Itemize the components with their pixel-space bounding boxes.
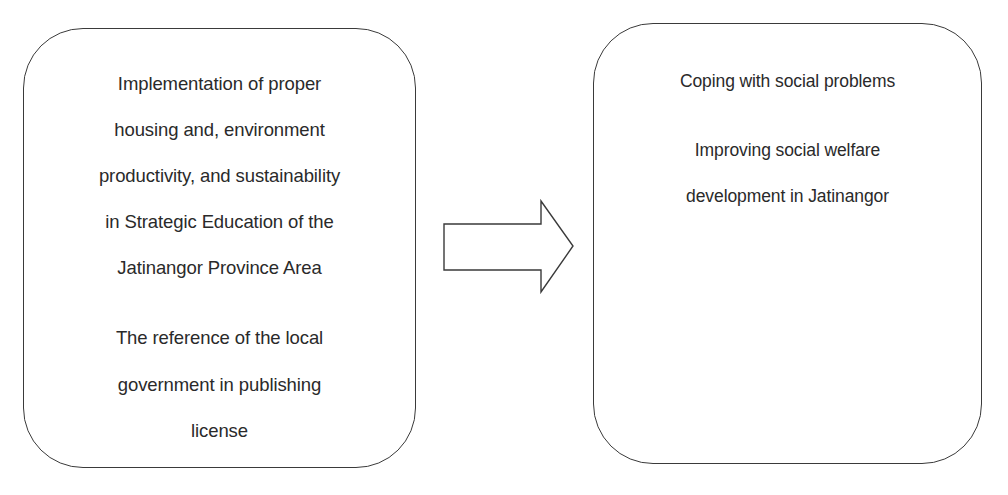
target-box: Coping with social problems Improving so… — [593, 23, 982, 464]
target-text-line: Coping with social problems — [594, 70, 981, 92]
source-text-line: productivity, and sustainability — [24, 165, 415, 187]
source-text-line: in Strategic Education of the — [24, 211, 415, 233]
source-text-line: The reference of the local — [24, 327, 415, 349]
source-box: Implementation of proper housing and, en… — [23, 28, 416, 468]
target-text-line: development in Jatinangor — [594, 185, 981, 207]
target-text-line: Improving social welfare — [594, 139, 981, 161]
source-text-line: license — [24, 420, 415, 442]
source-text-line: Implementation of proper — [24, 73, 415, 95]
source-text-line: government in publishing — [24, 374, 415, 396]
source-text-line: Jatinangor Province Area — [24, 257, 415, 279]
source-text-line: housing and, environment — [24, 119, 415, 141]
